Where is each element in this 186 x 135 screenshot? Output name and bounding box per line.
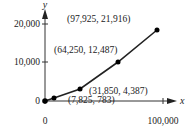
data-point-origin xyxy=(42,98,48,104)
x-axis-label: x xyxy=(179,95,185,106)
annotation-p3: (64,250, 12,487) xyxy=(54,45,117,56)
y-tick-label-10000: 10,000 xyxy=(14,57,40,67)
data-point-4 xyxy=(155,28,160,33)
annotation-p1: (7,825, 783) xyxy=(68,95,115,106)
data-point-1 xyxy=(52,96,57,101)
y-axis-arrow-icon xyxy=(42,9,48,19)
y-tick-label-0: 0 xyxy=(35,96,40,106)
x-tick-label-0: 0 xyxy=(43,116,48,126)
line-chart: y x 20,000 10,000 0 0 100,000 (7,825, 78… xyxy=(0,0,186,135)
y-tick-label-20000: 20,000 xyxy=(14,19,40,29)
data-point-3 xyxy=(116,60,121,65)
data-point-2 xyxy=(78,87,83,92)
x-axis-arrow-icon xyxy=(167,98,177,104)
y-axis-label: y xyxy=(42,0,48,10)
annotation-p2: (31,850, 4,387) xyxy=(89,86,148,97)
x-tick-label-100000: 100,000 xyxy=(148,116,179,126)
annotation-p4: (97,925, 21,916) xyxy=(67,14,130,25)
